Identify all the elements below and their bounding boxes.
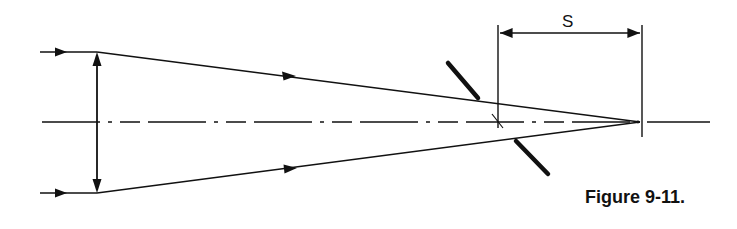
- focal-point: [637, 121, 640, 124]
- dimension-S: S: [498, 12, 642, 137]
- ray-arrow-icon: [282, 72, 296, 81]
- ray-arrow-icon: [55, 48, 67, 57]
- converging-ray-top: [97, 52, 640, 122]
- ray-arrow-icon: [284, 165, 298, 174]
- ray-arrow-icon: [55, 189, 67, 198]
- incoming-ray-top: [40, 48, 97, 57]
- lens-arrow-up-icon: [93, 52, 102, 66]
- lens-arrow-down-icon: [93, 179, 102, 193]
- figure-caption: Figure 9-11.: [585, 187, 685, 208]
- dimension-label: S: [562, 12, 573, 31]
- converging-ray-bottom: [97, 122, 640, 193]
- incoming-ray-bottom: [40, 189, 97, 198]
